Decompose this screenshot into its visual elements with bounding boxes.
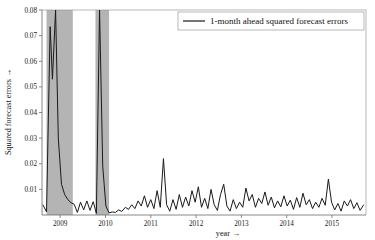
x-tick-label: 2012 [189,220,204,228]
y-tick-label: 0.07 [24,32,37,40]
y-tick-label: 0.01 [24,186,37,194]
legend-entry-label: 1-month ahead squared forecast errors [210,16,348,26]
legend[interactable]: 1-month ahead squared forecast errors [178,12,364,30]
chart-container: 0.010.020.030.040.050.060.070.08 2009201… [0,0,375,240]
y-tick-label: 0.05 [24,83,37,91]
x-tick-label: 2009 [53,220,68,228]
y-tick-label: 0.08 [24,7,37,15]
x-tick-label: 2013 [234,220,249,228]
y-tick-label: 0.02 [24,160,37,168]
x-axis-title: year → [216,229,240,238]
x-tick-label: 2015 [325,220,340,228]
x-tick-label: 2011 [144,220,159,228]
x-tick-label: 2010 [98,220,113,228]
y-tick-label: 0.03 [24,135,37,143]
y-tick-label: 0.06 [24,58,37,66]
y-axis-title: Squared forecast errors → [4,69,13,155]
x-tick-label: 2014 [280,220,295,228]
y-tick-label: 0.04 [24,109,37,117]
forecast-errors-line-chart: 0.010.020.030.040.050.060.070.08 2009201… [0,0,375,240]
